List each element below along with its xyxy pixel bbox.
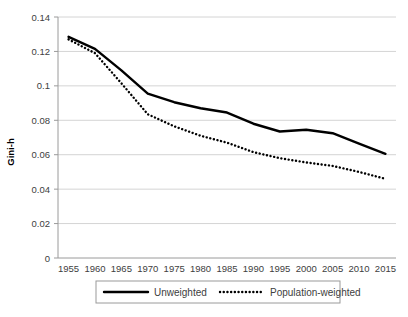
x-axis-tick-label: 2015 (375, 263, 396, 274)
y-axis-tick-label: 0.14 (32, 12, 51, 23)
x-axis-tick-label: 1965 (111, 263, 132, 274)
y-axis-tick-label: 0 (45, 253, 50, 264)
x-axis-tick-label: 1975 (164, 263, 185, 274)
x-axis-tick-label: 1970 (137, 263, 158, 274)
y-axis-tick-label: 0.08 (32, 115, 51, 126)
y-axis-tick-label: 0.02 (32, 218, 51, 229)
x-axis-tick-label: 1990 (243, 263, 264, 274)
x-axis-tick-label: 1955 (58, 263, 79, 274)
legend-label-1: Unweighted (154, 287, 207, 298)
x-axis-tick-label: 1960 (84, 263, 105, 274)
y-axis-tick-label: 0.12 (32, 46, 51, 57)
y-axis-title-text: Gini-h (5, 138, 16, 166)
x-axis-tick-label: 2000 (296, 263, 317, 274)
y-axis-title: Gini-h (5, 138, 16, 166)
y-axis-tick-label: 0.04 (32, 184, 51, 195)
x-axis-tick-label: 2005 (322, 263, 343, 274)
line-chart: 00.020.040.060.080.10.120.14 19551960196… (0, 0, 408, 317)
chart-legend: UnweightedPopulation-weighted (96, 281, 361, 303)
legend-label-2: Population-weighted (270, 287, 361, 298)
x-axis-tick-label: 1980 (190, 263, 211, 274)
x-axis-tick-label: 1985 (216, 263, 237, 274)
chart-figure: 00.020.040.060.080.10.120.14 19551960196… (0, 0, 408, 317)
x-axis-tick-label: 2010 (348, 263, 369, 274)
y-axis-tick-label: 0.06 (32, 149, 51, 160)
x-axis-tick-label: 1995 (269, 263, 290, 274)
y-axis-tick-label: 0.1 (37, 80, 50, 91)
